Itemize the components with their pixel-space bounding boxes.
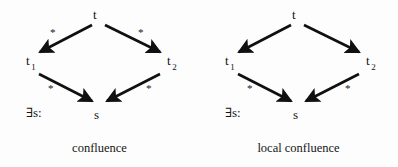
node-t1-subscript: 1	[230, 62, 235, 72]
edge-label-upper-right: *	[138, 28, 144, 36]
exists-label: ∃s:	[225, 106, 241, 119]
edge-t1-to-s	[39, 74, 92, 101]
node-t2: t2	[366, 54, 374, 69]
node-t2-subscript: 2	[172, 62, 177, 72]
edge-label-upper-left: *	[50, 28, 56, 36]
caption-local-confluence: local confluence	[199, 141, 398, 155]
edge-top-to-t1	[40, 25, 92, 52]
edge-label-lower-right: *	[345, 84, 351, 92]
node-t2-label: t	[366, 53, 370, 68]
caption-confluence: confluence	[0, 141, 199, 155]
node-s: s	[94, 108, 99, 121]
node-s: s	[293, 108, 298, 121]
node-t2-subscript: 2	[371, 62, 376, 72]
edge-top-to-t2	[105, 25, 160, 52]
node-t1-label: t	[26, 53, 30, 68]
node-top-t-label: t	[93, 7, 97, 22]
confluence-figure: t t1 t2 s ∃s: * * * * confluence	[0, 0, 398, 167]
edge-t1-to-s	[238, 74, 291, 101]
node-t1-subscript: 1	[31, 62, 36, 72]
edge-label-lower-left: *	[247, 84, 253, 92]
node-t2: t2	[167, 54, 175, 69]
edge-label-lower-left: *	[48, 84, 54, 92]
node-s-label: s	[94, 107, 99, 122]
edge-label-lower-right: *	[146, 84, 152, 92]
edge-top-to-t2	[304, 25, 359, 52]
exists-label: ∃s:	[26, 106, 42, 119]
diagram-local-confluence: t t1 t2 s ∃s: * * local confluence	[199, 0, 398, 167]
diagram-confluence: t t1 t2 s ∃s: * * * * confluence	[0, 0, 199, 167]
node-top-t: t	[93, 8, 97, 21]
node-t2-label: t	[167, 53, 171, 68]
node-t1: t1	[26, 54, 34, 69]
edge-top-to-t1	[239, 25, 291, 52]
node-top-t: t	[292, 8, 296, 21]
node-s-label: s	[293, 107, 298, 122]
edge-t2-to-s	[306, 74, 359, 101]
node-t1: t1	[225, 54, 233, 69]
edge-t2-to-s	[107, 74, 160, 101]
node-t1-label: t	[225, 53, 229, 68]
node-top-t-label: t	[292, 7, 296, 22]
